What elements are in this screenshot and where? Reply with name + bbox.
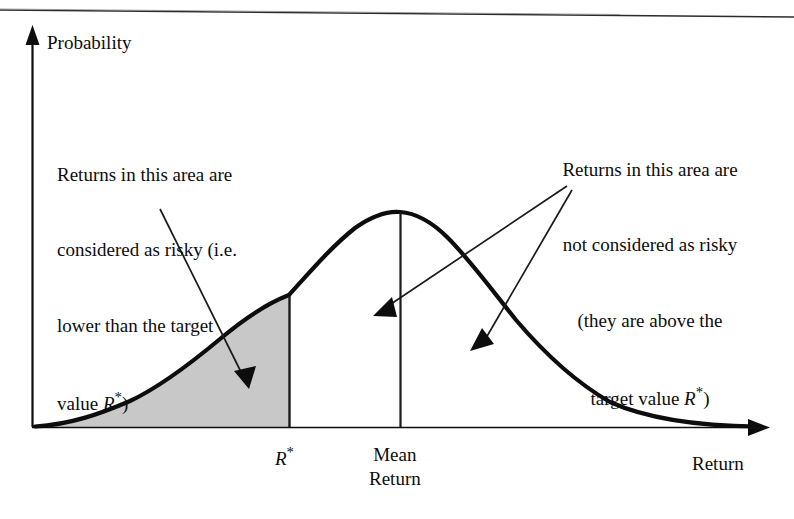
annotation-left-line-4: value R*) (57, 388, 317, 416)
annotation-right-line-4: target value R*) (514, 383, 786, 411)
annotation-left-line-4-suffix: ) (122, 393, 128, 414)
annotation-left-line-4-prefix: value (57, 393, 103, 414)
mean-return-label-line-2: Return (369, 467, 421, 491)
x-tick-label-mean-return: MeanReturn (369, 443, 421, 490)
annotation-left-target-star: * (115, 389, 122, 405)
annotation-right-target-star: * (696, 384, 703, 400)
annotation-risky-area: Returns in this area are considered as r… (57, 112, 317, 466)
annotation-right-line-2: not considered as risky (514, 232, 786, 257)
annotation-left-line-1: Returns in this area are (57, 162, 317, 187)
y-axis-arrowhead (26, 25, 40, 45)
annotation-left-line-2: considered as risky (i.e. (57, 237, 317, 262)
annotation-right-line-4-suffix: ) (703, 388, 709, 409)
annotation-right-target-symbol: R (684, 388, 696, 409)
annotation-right-line-3: (they are above the (514, 308, 786, 333)
figure-canvas: Probability Return R* MeanReturn Returns… (0, 0, 794, 519)
annotation-left-line-3: lower than the target (57, 313, 317, 338)
annotation-right-line-1: Returns in this area are (514, 157, 786, 182)
mean-return-label-line-1: Mean (369, 443, 421, 467)
annotation-non-risky-area: Returns in this area are not considered … (514, 107, 786, 461)
y-axis-title: Probability (47, 31, 131, 55)
annotation-right-line-4-prefix: target value (591, 388, 685, 409)
annotation-left-target-symbol: R (103, 393, 115, 414)
